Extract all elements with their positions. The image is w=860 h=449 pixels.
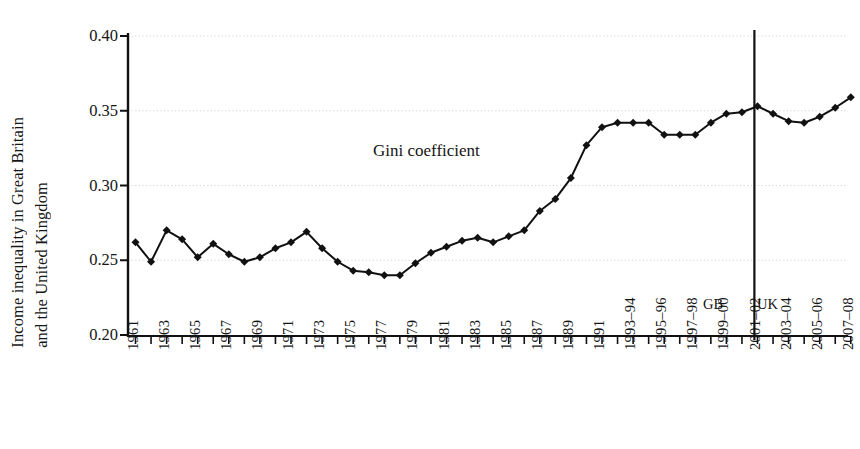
x-axis-tick-label: 1985 — [498, 320, 515, 350]
data-point-marker — [769, 110, 777, 118]
x-axis-tick-label: 1971 — [280, 320, 297, 350]
data-point-marker — [365, 268, 373, 276]
data-point-marker — [380, 271, 388, 279]
data-point-marker — [349, 267, 357, 275]
x-axis-tick-label: 1981 — [436, 320, 453, 350]
gini-markers — [132, 93, 855, 279]
x-axis-tick-label: 1997–98 — [684, 297, 701, 350]
data-point-marker — [785, 117, 793, 125]
data-point-marker — [489, 238, 497, 246]
x-axis-tick-label: 2007–08 — [840, 297, 857, 350]
x-axis-tick-label: 1963 — [156, 320, 173, 350]
x-axis-tick-label: 1991 — [591, 320, 608, 350]
gridlines — [128, 36, 848, 335]
series-annotation-gini: Gini coefficient — [373, 141, 480, 161]
x-axis-tick-label: 1973 — [311, 320, 328, 350]
x-axis-tick-label: 1969 — [249, 320, 266, 350]
data-point-marker — [240, 258, 248, 266]
plot-canvas — [0, 0, 860, 449]
data-point-marker — [256, 253, 264, 261]
data-point-marker — [800, 119, 808, 127]
data-point-marker — [816, 113, 824, 121]
data-point-marker — [614, 119, 622, 127]
x-axis-tick-label: 1995–96 — [653, 297, 670, 350]
x-axis-tick-label: 1983 — [467, 320, 484, 350]
data-point-marker — [738, 108, 746, 116]
data-point-marker — [443, 243, 451, 251]
x-axis-tick-label: 2003–04 — [778, 297, 795, 350]
x-axis-tick-label: 1999–00 — [715, 297, 732, 350]
x-axis-tick-label: 1979 — [404, 320, 421, 350]
chart-figure: Income inequality in Great Britain and t… — [0, 0, 860, 449]
x-axis-tick-label: 1961 — [125, 320, 142, 350]
data-point-marker — [505, 232, 513, 240]
data-point-marker — [676, 131, 684, 139]
data-point-marker — [163, 226, 171, 234]
x-axis-tick-label: 1989 — [560, 320, 577, 350]
data-point-marker — [629, 119, 637, 127]
x-axis — [128, 336, 851, 344]
x-axis-tick-label: 2001–02 — [747, 297, 764, 350]
x-axis-tick-label: 2005–06 — [809, 297, 826, 350]
data-point-marker — [474, 234, 482, 242]
x-axis-tick-label: 1987 — [529, 320, 546, 350]
x-axis-tick-label: 1975 — [342, 320, 359, 350]
gini-coefficient-series — [132, 93, 855, 279]
data-point-marker — [458, 237, 466, 245]
x-axis-tick-label: 1993–94 — [622, 297, 639, 350]
data-point-marker — [271, 244, 279, 252]
x-axis-tick-label: 1967 — [218, 320, 235, 350]
x-axis-ticks — [136, 336, 851, 344]
gini-line — [136, 97, 851, 275]
y-axis — [120, 33, 128, 337]
x-axis-tick-label: 1965 — [187, 320, 204, 350]
x-axis-tick-label: 1977 — [373, 320, 390, 350]
